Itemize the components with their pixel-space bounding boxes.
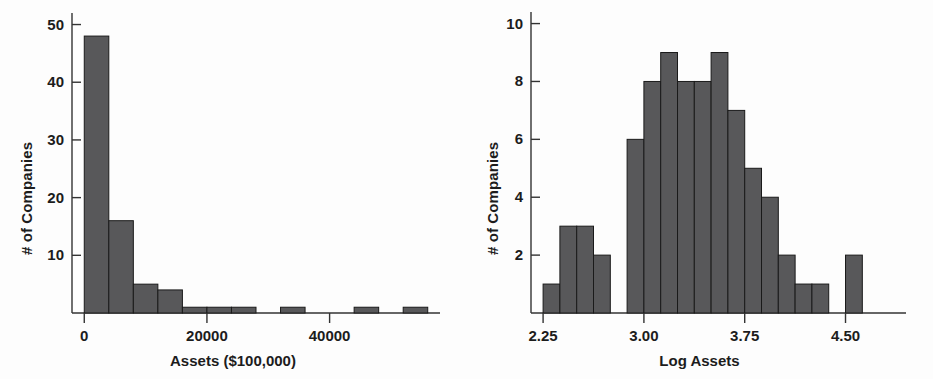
y-tick-label: 50 [47,16,64,33]
y-tick-label: 8 [515,72,523,89]
histogram-bar [543,284,560,313]
log-assets-histogram-plot: 2468102.253.003.754.50 [466,0,933,345]
histogram-bar [846,255,863,313]
assets-histogram-panel: # of Companies 102030405002000040000 Ass… [0,0,466,379]
histogram-bar [694,81,711,313]
x-tick-label: 20000 [186,327,228,344]
histogram-bar [678,81,695,313]
histogram-bar [644,81,661,313]
x-tick-label: 3.00 [629,327,658,344]
histogram-bar [627,139,644,313]
x-tick-label: 0 [80,327,88,344]
histogram-bar [560,226,577,313]
histogram-bar [231,307,256,313]
x-tick-label: 2.25 [528,327,557,344]
y-tick-label: 30 [47,131,64,148]
histogram-bar [84,36,109,313]
histogram-bar [158,290,183,313]
histogram-bar [182,307,207,313]
histogram-bar [403,307,428,313]
histogram-bar [354,307,379,313]
assets-x-axis-label: Assets ($100,000) [0,352,466,369]
log-assets-histogram-panel: # of Companies 2468102.253.003.754.50 Lo… [466,0,933,379]
y-tick-label: 10 [47,246,64,263]
histogram-bar [207,307,232,313]
y-tick-label: 40 [47,73,64,90]
y-tick-label: 10 [506,15,523,32]
two-histogram-figure: # of Companies 102030405002000040000 Ass… [0,0,933,379]
y-tick-label: 4 [515,188,524,205]
histogram-bar [778,255,795,313]
histogram-bar [133,284,158,313]
histogram-bar [812,284,829,313]
y-tick-label: 2 [515,246,523,263]
x-tick-label: 4.50 [831,327,860,344]
x-tick-label: 40000 [309,327,351,344]
histogram-bar [728,110,745,313]
x-tick-label: 3.75 [730,327,759,344]
y-tick-label: 6 [515,130,523,147]
histogram-bar [795,284,812,313]
histogram-bar [281,307,306,313]
histogram-bar [577,226,594,313]
assets-histogram-plot: 102030405002000040000 [0,0,466,345]
histogram-bar [745,168,762,313]
y-tick-label: 20 [47,189,64,206]
histogram-bar [711,53,728,313]
histogram-bar [661,53,678,313]
histogram-bar [762,197,779,313]
histogram-bar [594,255,611,313]
histogram-bar [109,221,134,313]
log-assets-x-axis-label: Log Assets [466,352,933,369]
